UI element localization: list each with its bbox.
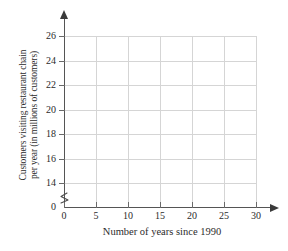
- x-axis-title: Number of years since 1990: [52, 226, 272, 237]
- y-axis-tick-label: 26: [32, 31, 56, 41]
- gridline-vertical: [96, 36, 97, 207]
- y-axis-tick-label: 20: [32, 105, 56, 115]
- x-axis-tick: [256, 202, 257, 208]
- y-axis-tick: [59, 36, 65, 37]
- x-axis-tick: [128, 202, 129, 208]
- y-axis-tick-label: 16: [32, 154, 56, 164]
- x-axis-tick-label: 5: [83, 211, 109, 221]
- x-axis-tick-label: 20: [179, 211, 205, 221]
- y-axis-tick-label: 18: [32, 129, 56, 139]
- x-axis-tick: [192, 202, 193, 208]
- y-axis-tick: [59, 61, 65, 62]
- y-axis-tick: [59, 183, 65, 184]
- x-axis-tick-label: 0: [51, 211, 77, 221]
- y-axis-tick: [59, 85, 65, 86]
- gridline-vertical: [256, 36, 257, 207]
- x-axis-tick-label: 15: [147, 211, 173, 221]
- chart-canvas: Customers visiting restaurant chain per …: [0, 0, 288, 251]
- arrow-right-icon: [270, 204, 279, 212]
- y-axis-tick: [59, 110, 65, 111]
- y-axis-tick-label: 22: [32, 80, 56, 90]
- y-axis-tick-label: 14: [32, 178, 56, 188]
- y-axis-line: [64, 18, 65, 208]
- gridline-vertical: [224, 36, 225, 207]
- x-axis-tick-label: 30: [243, 211, 269, 221]
- y-axis-title-line-1: Customers visiting restaurant chain: [18, 50, 29, 181]
- x-axis-tick-label: 10: [115, 211, 141, 221]
- y-axis-tick: [59, 159, 65, 160]
- x-axis-tick: [64, 202, 65, 208]
- x-axis-tick: [224, 202, 225, 208]
- y-axis-tick: [59, 134, 65, 135]
- arrow-up-icon: [60, 10, 68, 19]
- y-axis-tick-label: 24: [32, 56, 56, 66]
- plot-area: [64, 36, 256, 207]
- x-axis-tick: [96, 202, 97, 208]
- x-axis-tick: [160, 202, 161, 208]
- gridline-vertical: [160, 36, 161, 207]
- gridline-vertical: [128, 36, 129, 207]
- x-axis-tick-label: 25: [211, 211, 237, 221]
- gridline-vertical: [192, 36, 193, 207]
